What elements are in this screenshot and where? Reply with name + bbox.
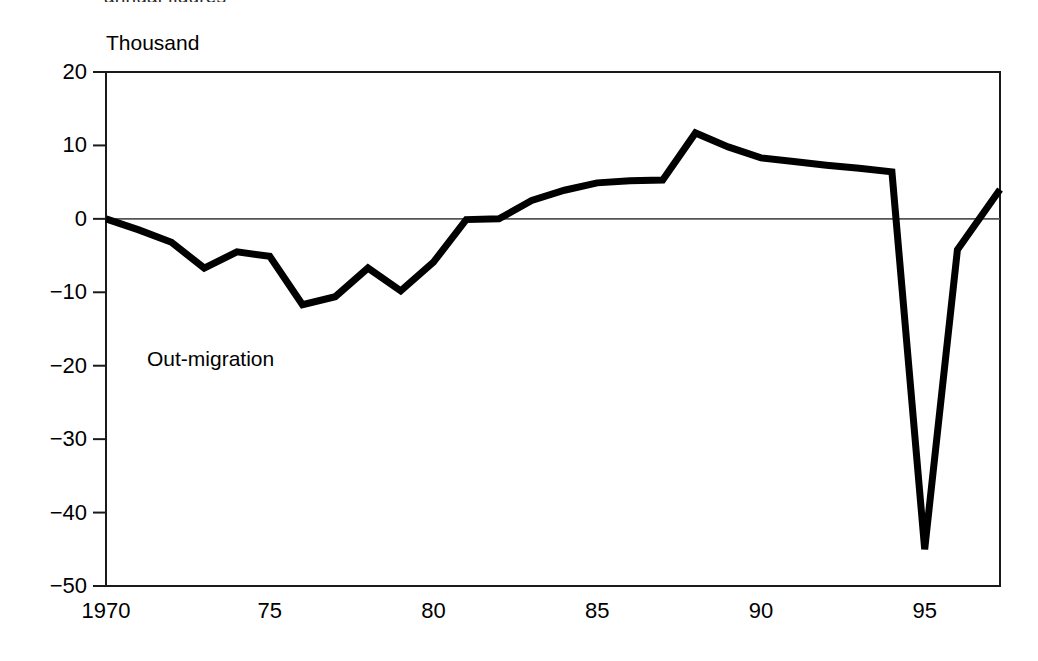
y-axis-tick-label: 10 xyxy=(13,134,87,156)
x-axis-tick-label: 95 xyxy=(880,600,970,622)
net-migration-line xyxy=(106,133,1000,549)
x-axis-tick-label: 85 xyxy=(552,600,642,622)
y-axis-tick-label: −40 xyxy=(13,502,87,524)
y-axis-tick-label: −10 xyxy=(13,281,87,303)
x-axis-tick-label: 75 xyxy=(225,600,315,622)
x-axis-tick-label: 80 xyxy=(388,600,478,622)
y-axis-tick-label: −50 xyxy=(13,575,87,597)
x-axis-tick-label: 90 xyxy=(716,600,806,622)
y-axis-tick-label: 20 xyxy=(13,61,87,83)
y-axis-tick-label: 0 xyxy=(13,208,87,230)
migration-line-chart: annual figures Thousand Out-migration 20… xyxy=(0,0,1038,661)
y-axis-tick-label: −30 xyxy=(13,428,87,450)
y-axis-tick-marks xyxy=(93,72,106,586)
plot-canvas xyxy=(0,0,1038,661)
x-axis-tick-label: 1970 xyxy=(61,600,151,622)
y-axis-tick-label: −20 xyxy=(13,355,87,377)
plot-frame xyxy=(106,72,1000,586)
